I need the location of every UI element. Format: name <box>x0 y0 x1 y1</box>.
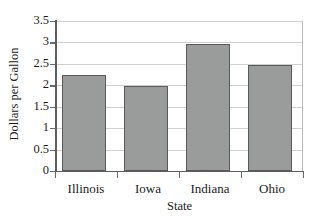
gridline <box>55 42 303 43</box>
x-axis-tick <box>117 172 118 178</box>
y-tick-label: 2.5 <box>22 57 49 70</box>
bar-indiana <box>186 44 230 171</box>
y-axis-tick-labels: 3.5 3 2.5 2 1.5 1 0.5 0 <box>22 14 49 174</box>
y-tick-label: 3.5 <box>22 14 49 27</box>
y-tick-label: 0.5 <box>22 143 49 156</box>
bar-ohio <box>248 65 292 171</box>
x-axis-tick-labels: Illinois Iowa Indiana Ohio <box>55 180 304 198</box>
y-tick-label: 2 <box>22 78 49 91</box>
x-axis-title: State <box>55 199 304 214</box>
bar-illinois <box>62 75 106 171</box>
x-tick-label-indiana: Indiana <box>179 180 241 197</box>
x-axis-tick <box>303 172 304 178</box>
x-axis-tick <box>241 172 242 178</box>
y-tick-label: 1 <box>22 121 49 134</box>
x-tick-label-ohio: Ohio <box>241 180 303 197</box>
bar-iowa <box>124 86 168 171</box>
chart-title <box>0 0 314 1</box>
y-axis-title: Dollars per Gallon <box>6 28 22 160</box>
plot-right-border <box>302 21 303 171</box>
y-tick-label: 1.5 <box>22 100 49 113</box>
x-axis-tick <box>179 172 180 178</box>
y-tick-label: 3 <box>22 35 49 48</box>
y-axis-title-label: Dollars per Gallon <box>6 28 22 160</box>
x-axis-tick <box>55 172 56 178</box>
bar-chart: Dollars per Gallon 3.5 3 2.5 2 1.5 1 0.5… <box>0 0 314 221</box>
x-tick-label-illinois: Illinois <box>55 180 117 197</box>
x-tick-label-iowa: Iowa <box>117 180 179 197</box>
y-axis-line <box>55 20 57 172</box>
gridline <box>55 21 303 22</box>
y-tick-label: 0 <box>22 164 49 177</box>
plot-area <box>55 21 303 171</box>
